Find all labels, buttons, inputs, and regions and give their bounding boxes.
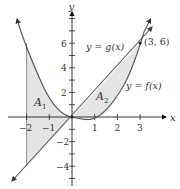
- y-tick-label: 6: [61, 39, 67, 49]
- x-tick-label: 3: [137, 123, 143, 133]
- area-between-curves-diagram: −2 −1 1 2 3 6 4 2 −2 −4 y x y = g(x) y =…: [0, 0, 180, 189]
- x-tick-label: −1: [42, 123, 55, 133]
- g-curve-label: y = g(x): [85, 41, 125, 52]
- y-tick-label: −2: [56, 137, 69, 147]
- x-tick-label: −2: [19, 123, 32, 133]
- x-tick-label: 1: [92, 123, 98, 133]
- intersection-point-3-6: [139, 42, 142, 45]
- f-curve-label: y = f(x): [125, 80, 162, 91]
- intersection-label: (3, 6): [144, 36, 170, 47]
- x-axis-label: x: [170, 112, 176, 123]
- y-tick-label: 2: [61, 88, 67, 98]
- y-tick-label: 4: [61, 63, 67, 73]
- x-tick-label: 2: [115, 123, 121, 133]
- intersection-point-origin: [70, 115, 73, 118]
- y-tick-label: −4: [56, 162, 70, 172]
- y-axis-label: y: [68, 1, 75, 12]
